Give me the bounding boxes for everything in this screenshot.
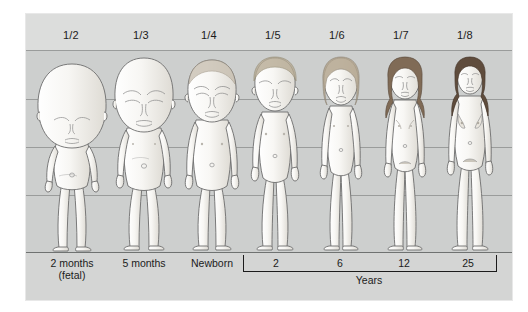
ratio-label-5-months: 1/3 xyxy=(106,29,176,41)
figure-5-months xyxy=(106,56,182,252)
figure-2-months-fetal xyxy=(34,62,110,252)
age-label-line1: 5 months xyxy=(122,257,165,269)
figure-12-years xyxy=(374,56,436,252)
figure-25-years xyxy=(438,56,502,252)
ratio-label-6-years: 1/6 xyxy=(302,29,372,41)
ratio-label-newborn: 1/4 xyxy=(174,29,244,41)
figure-2-years xyxy=(242,56,308,252)
ratio-label-2-months-fetal: 1/2 xyxy=(36,29,106,41)
ratio-label-25-years: 1/8 xyxy=(430,29,500,41)
ratio-label-2-years: 1/5 xyxy=(238,29,308,41)
gridline-top xyxy=(26,50,512,51)
ground-baseline xyxy=(26,252,512,253)
figure-newborn xyxy=(176,58,248,252)
age-label-line2: (fetal) xyxy=(29,269,115,281)
years-bracket xyxy=(243,255,497,272)
figure-6-years xyxy=(310,56,372,252)
age-label-line1: 2 months xyxy=(50,257,93,269)
age-label-line1: Newborn xyxy=(191,257,233,269)
ratio-label-12-years: 1/7 xyxy=(366,29,436,41)
growth-proportion-figure-panel: 1/2 1/3 1/4 1/5 1/6 1/7 1/8 xyxy=(26,14,512,300)
years-bracket-label: Years xyxy=(243,274,495,286)
